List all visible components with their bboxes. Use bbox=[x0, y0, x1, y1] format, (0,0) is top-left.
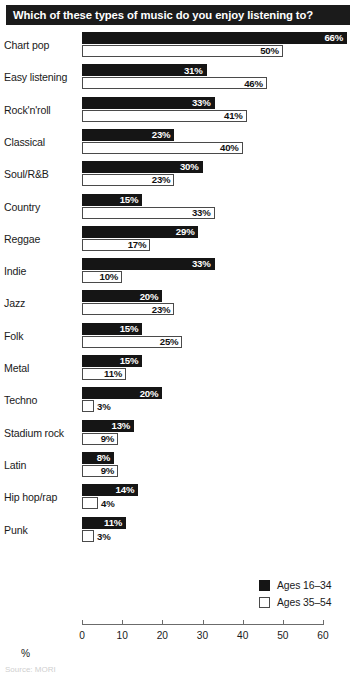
source-note: Source: MORI bbox=[5, 665, 56, 673]
bar-ages-16-34[interactable]: 23% bbox=[82, 129, 174, 141]
bar-ages-16-34[interactable]: 8% bbox=[82, 452, 114, 464]
axis-tick bbox=[283, 620, 284, 625]
bar-ages-35-54[interactable]: 23% bbox=[82, 174, 174, 186]
chart-row: Stadium rock13%9% bbox=[0, 420, 357, 449]
category-label: Easy listening bbox=[4, 71, 76, 83]
bar-value-label: 31% bbox=[184, 66, 206, 76]
legend-label: Ages 35–54 bbox=[277, 597, 331, 608]
axis-tick-label: 30 bbox=[197, 630, 208, 641]
category-label: Classical bbox=[4, 136, 76, 148]
bar-ages-35-54[interactable]: 17% bbox=[82, 239, 150, 251]
bar-ages-16-34[interactable]: 11% bbox=[82, 517, 126, 529]
bar-ages-16-34[interactable]: 20% bbox=[82, 290, 162, 302]
bar-group: 29%17% bbox=[82, 226, 342, 252]
category-label: Soul/R&B bbox=[4, 168, 76, 180]
legend-item[interactable]: Ages 16–34 bbox=[259, 578, 355, 593]
axis-tick bbox=[122, 620, 123, 625]
bar-value-label: 23% bbox=[152, 175, 174, 185]
axis-tick-label: 10 bbox=[116, 630, 127, 641]
chart-row: Hip hop/rap14%4% bbox=[0, 484, 357, 513]
bar-value-label: 20% bbox=[140, 389, 162, 399]
bar-value-label: 40% bbox=[220, 143, 242, 153]
category-label: Hip hop/rap bbox=[4, 491, 76, 503]
bar-ages-16-34[interactable]: 15% bbox=[82, 323, 142, 335]
axis-tick-label: 60 bbox=[317, 630, 328, 641]
bar-value-label: 4% bbox=[101, 499, 114, 509]
bar-ages-16-34[interactable]: 30% bbox=[82, 161, 203, 173]
category-label: Country bbox=[4, 201, 76, 213]
bar-group: 14%4% bbox=[82, 484, 342, 510]
bar-ages-35-54[interactable]: 41% bbox=[82, 110, 247, 122]
bar-value-label: 9% bbox=[101, 466, 117, 476]
bar-value-label: 20% bbox=[140, 292, 162, 302]
category-label: Jazz bbox=[4, 297, 76, 309]
bar-ages-16-34[interactable]: 15% bbox=[82, 355, 142, 367]
bar-ages-35-54[interactable] bbox=[82, 400, 94, 412]
axis-tick-label: 40 bbox=[237, 630, 248, 641]
chart-row: Soul/R&B30%23% bbox=[0, 161, 357, 190]
bar-group: 31%46% bbox=[82, 64, 342, 90]
axis-tick bbox=[162, 620, 163, 625]
axis-tick-label: 50 bbox=[277, 630, 288, 641]
bar-value-label: 23% bbox=[152, 130, 174, 140]
chart-title-banner: Which of these types of music do you enj… bbox=[6, 5, 350, 25]
bar-value-label: 46% bbox=[244, 79, 266, 89]
bar-ages-35-54[interactable] bbox=[82, 530, 94, 542]
axis-title-text: % bbox=[21, 648, 30, 659]
chart-row: Punk11%3% bbox=[0, 517, 357, 546]
bar-ages-16-34[interactable]: 66% bbox=[82, 32, 347, 44]
bar-ages-35-54[interactable]: 33% bbox=[82, 207, 215, 219]
chart-row: Latin8%9% bbox=[0, 452, 357, 481]
bar-value-label: 33% bbox=[192, 259, 214, 269]
bar-value-label: 3% bbox=[97, 532, 110, 542]
chart-row: Indie33%10% bbox=[0, 258, 357, 287]
bar-ages-35-54[interactable]: 40% bbox=[82, 142, 243, 154]
legend-item[interactable]: Ages 35–54 bbox=[259, 595, 355, 610]
bar-value-label: 11% bbox=[104, 518, 125, 528]
bar-ages-35-54[interactable]: 11% bbox=[82, 368, 126, 380]
bar-group: 33%10% bbox=[82, 258, 342, 284]
x-axis: 0102030405060 % bbox=[0, 624, 357, 670]
bar-group: 13%9% bbox=[82, 420, 342, 446]
bar-ages-35-54[interactable]: 9% bbox=[82, 433, 118, 445]
bar-ages-16-34[interactable]: 33% bbox=[82, 258, 215, 270]
bar-ages-35-54[interactable] bbox=[82, 497, 98, 509]
bar-value-label: 25% bbox=[160, 337, 182, 347]
bar-ages-16-34[interactable]: 33% bbox=[82, 97, 215, 109]
bar-group: 33%41% bbox=[82, 97, 342, 123]
legend-swatch-light bbox=[259, 597, 270, 608]
category-label: Punk bbox=[4, 524, 76, 536]
bar-ages-35-54[interactable]: 10% bbox=[82, 271, 122, 283]
bar-value-label: 15% bbox=[120, 195, 142, 205]
bar-ages-35-54[interactable]: 46% bbox=[82, 77, 267, 89]
axis-tick bbox=[243, 620, 244, 625]
bar-ages-35-54[interactable]: 9% bbox=[82, 465, 118, 477]
page-title: Which of these types of music do you enj… bbox=[6, 9, 313, 21]
bar-ages-16-34[interactable]: 29% bbox=[82, 226, 198, 238]
bar-ages-35-54[interactable]: 25% bbox=[82, 336, 182, 348]
bar-ages-35-54[interactable]: 23% bbox=[82, 303, 174, 315]
bar-group: 30%23% bbox=[82, 161, 342, 187]
chart-row: Easy listening31%46% bbox=[0, 64, 357, 93]
bar-ages-16-34[interactable]: 14% bbox=[82, 484, 138, 496]
bar-value-label: 10% bbox=[100, 272, 122, 282]
bar-value-label: 17% bbox=[128, 240, 150, 250]
legend-swatch-dark bbox=[259, 580, 270, 591]
bar-group: 20%3% bbox=[82, 387, 342, 413]
bar-ages-16-34[interactable]: 15% bbox=[82, 194, 142, 206]
bar-group: 23%40% bbox=[82, 129, 342, 155]
chart-row: Chart pop66%50% bbox=[0, 32, 357, 61]
category-label: Rock'n'roll bbox=[4, 104, 76, 116]
bar-group: 15%25% bbox=[82, 323, 342, 349]
bar-ages-16-34[interactable]: 13% bbox=[82, 420, 134, 432]
bar-ages-16-34[interactable]: 31% bbox=[82, 64, 207, 76]
bar-ages-35-54[interactable]: 50% bbox=[82, 45, 283, 57]
category-label: Chart pop bbox=[4, 39, 76, 51]
category-label: Metal bbox=[4, 362, 76, 374]
bar-group: 11%3% bbox=[82, 517, 342, 543]
chart-row: Folk15%25% bbox=[0, 323, 357, 352]
bar-value-label: 33% bbox=[192, 208, 214, 218]
bar-ages-16-34[interactable]: 20% bbox=[82, 387, 162, 399]
category-label: Stadium rock bbox=[4, 427, 76, 439]
chart-row: Techno20%3% bbox=[0, 387, 357, 416]
